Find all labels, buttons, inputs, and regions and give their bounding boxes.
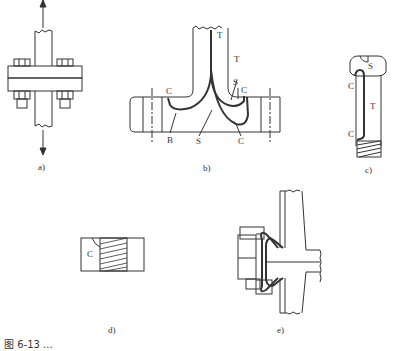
annotation-b-S-1: S <box>233 78 238 87</box>
panel-b-drawing <box>130 26 280 144</box>
panel-label-d: d) <box>108 325 116 335</box>
panel-label-b: b) <box>203 163 211 173</box>
annotation-d-C: C <box>87 250 93 259</box>
annotation-b-C-3: C <box>238 137 244 146</box>
figure-caption: 图 6-13 ... <box>4 336 53 351</box>
annotation-c-T: T <box>370 102 376 111</box>
panel-label-c: c) <box>365 165 372 175</box>
annotation-c-C-1: C <box>348 82 354 91</box>
annotation-b-T-2: T <box>234 55 240 64</box>
panel-e-drawing <box>238 190 321 314</box>
annotation-b-S-2: S <box>196 137 201 146</box>
annotation-c-S: S <box>368 62 373 71</box>
panel-label-a: a) <box>38 162 45 172</box>
annotation-b-B: B <box>167 136 173 145</box>
annotation-b-C-1: C <box>241 86 247 95</box>
annotation-b-T-1: T <box>217 31 223 40</box>
panel-c-drawing <box>350 56 386 157</box>
panel-label-e: e) <box>277 325 284 335</box>
annotation-b-C-2: C <box>166 87 172 96</box>
annotation-c-C-2: C <box>348 130 354 139</box>
panel-a-drawing <box>8 0 82 155</box>
